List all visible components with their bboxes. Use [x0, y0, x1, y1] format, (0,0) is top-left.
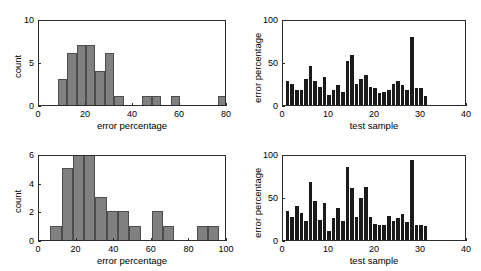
data-bar — [336, 85, 340, 105]
y-tick-label: 100 — [256, 16, 278, 25]
data-bar — [382, 225, 386, 240]
x-tick-mark — [226, 238, 227, 241]
data-bar — [369, 87, 373, 105]
y-tick-mark — [282, 155, 285, 156]
data-bar — [424, 96, 428, 105]
x-tick-mark — [420, 238, 421, 241]
data-bar — [300, 213, 304, 240]
bar-series-bottom-right — [283, 156, 465, 240]
panel-top-left: 020406080 0510 error percentage count — [0, 0, 241, 136]
y-tick-mark — [282, 241, 285, 242]
y-tick-label: 0 — [12, 102, 34, 111]
x-tick-label: 0 — [279, 109, 284, 119]
histogram-bar — [50, 226, 61, 240]
x-tick-label: 10 — [323, 109, 333, 119]
x-axis-label: test sample — [350, 255, 399, 266]
x-tick-mark — [420, 103, 421, 106]
y-tick-mark — [38, 20, 41, 21]
data-bar — [364, 187, 368, 240]
data-bar — [336, 208, 340, 240]
histogram-bar — [58, 79, 67, 105]
panel-bottom-right: 010203040 050100 test sample error perce… — [240, 135, 481, 271]
x-tick-mark — [374, 238, 375, 241]
data-bar — [346, 167, 350, 240]
bar-series-top-left — [39, 21, 225, 105]
histogram-bar — [95, 71, 104, 105]
y-tick-mark — [38, 241, 41, 242]
panel-top-right: 010203040 050100 test sample error perce… — [240, 0, 481, 136]
x-tick-mark — [328, 238, 329, 241]
histogram-bar — [163, 226, 174, 240]
histogram-bar — [84, 155, 95, 240]
x-tick-mark — [151, 238, 152, 241]
data-bar — [410, 160, 414, 240]
y-axis-label: error percentage — [252, 33, 263, 103]
x-tick-mark — [132, 103, 133, 106]
data-bar — [415, 225, 419, 240]
x-tick-label: 20 — [71, 244, 81, 254]
data-bar — [378, 225, 382, 240]
histogram-bar — [142, 96, 151, 105]
x-tick-label: 0 — [35, 109, 40, 119]
data-bar — [332, 218, 336, 240]
data-bar — [286, 81, 290, 105]
data-bar — [387, 216, 391, 240]
data-bar — [405, 222, 409, 240]
data-bar — [382, 92, 386, 105]
data-bar — [355, 217, 359, 240]
data-bar — [364, 75, 368, 105]
data-bar — [290, 217, 294, 240]
x-tick-label: 20 — [80, 109, 90, 119]
data-bar — [415, 88, 419, 105]
data-bar — [369, 217, 373, 240]
histogram-bar — [86, 45, 95, 105]
x-tick-label: 40 — [108, 244, 118, 254]
data-bar — [378, 93, 382, 105]
y-tick-mark — [282, 20, 285, 21]
data-bar — [309, 66, 313, 105]
x-tick-label: 0 — [279, 244, 284, 254]
y-axis-label: count — [12, 55, 23, 78]
data-bar — [332, 90, 336, 105]
y-tick-label: 100 — [256, 151, 278, 160]
y-tick-mark — [38, 106, 41, 107]
bar-series-bottom-left — [39, 156, 225, 240]
data-bar — [424, 226, 428, 240]
histogram-bar — [208, 226, 219, 240]
axes-bottom-left — [38, 155, 226, 241]
y-axis-label: error percentage — [252, 168, 263, 238]
x-tick-mark — [466, 103, 467, 106]
data-bar — [346, 61, 350, 105]
x-tick-label: 10 — [323, 244, 333, 254]
y-tick-mark — [38, 212, 41, 213]
data-bar — [392, 84, 396, 106]
data-bar — [392, 221, 396, 240]
x-tick-mark — [113, 238, 114, 241]
histogram-bar — [77, 45, 86, 105]
histogram-bar — [95, 197, 106, 240]
data-bar — [295, 90, 299, 105]
data-bar — [341, 92, 345, 105]
x-tick-label: 40 — [127, 109, 137, 119]
data-bar — [300, 90, 304, 105]
histogram-bar — [62, 168, 73, 240]
histogram-bar — [152, 211, 163, 240]
x-tick-label: 60 — [146, 244, 156, 254]
data-bar — [401, 214, 405, 240]
y-tick-label: 6 — [12, 151, 34, 160]
histogram-bar — [118, 211, 129, 240]
x-axis-label: test sample — [350, 120, 399, 131]
y-tick-label: 10 — [12, 16, 34, 25]
x-tick-mark — [466, 238, 467, 241]
histogram-bar — [218, 96, 226, 105]
x-tick-mark — [328, 103, 329, 106]
x-tick-label: 40 — [461, 109, 471, 119]
y-tick-mark — [282, 63, 285, 64]
histogram-bar — [105, 53, 114, 105]
panel-bottom-left: 020406080100 0246 error percentage count — [0, 135, 241, 271]
data-bar — [313, 81, 317, 105]
data-bar — [313, 201, 317, 240]
histogram-bar — [73, 155, 84, 240]
data-bar — [295, 206, 299, 240]
y-tick-mark — [38, 63, 41, 64]
